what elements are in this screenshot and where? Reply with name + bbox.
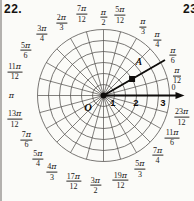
pi-symbol: π — [75, 171, 80, 180]
angle-label-315deg: 7π4 — [152, 146, 163, 165]
fraction: 17π12 — [66, 172, 81, 191]
fraction-denominator: 12 — [113, 181, 128, 190]
angle-label-345deg: 23π12 — [174, 108, 189, 127]
pi-symbol: π — [174, 65, 179, 74]
angle-label-45deg: π4 — [154, 30, 161, 49]
pi-symbol: π — [51, 162, 56, 171]
pi-symbol: π — [81, 4, 86, 13]
fraction: 7π12 — [76, 5, 87, 24]
origin-label: O — [84, 102, 92, 113]
pi-symbol: π — [26, 130, 31, 139]
fraction-denominator: 3 — [139, 28, 146, 37]
fraction: 5π12 — [114, 6, 125, 25]
fraction: 11π6 — [165, 129, 180, 148]
angle-label-90deg: π2 — [100, 8, 107, 27]
angle-label-60deg: π3 — [139, 18, 146, 37]
axis-number-2: 2 — [133, 96, 138, 107]
angle-label-135deg: 3π4 — [36, 25, 47, 44]
pi-symbol: π — [122, 170, 127, 179]
fraction-denominator: 12 — [173, 76, 181, 85]
axis-number-3: 3 — [160, 96, 165, 107]
pi-symbol: π — [9, 90, 14, 99]
fraction-denominator: 2 — [90, 186, 101, 195]
pi-symbol: π — [16, 61, 21, 70]
fraction-denominator: 2 — [100, 18, 107, 27]
fraction: π6 — [169, 46, 176, 65]
angle-label-270deg: 3π2 — [90, 176, 101, 195]
pi-symbol: π — [37, 149, 42, 158]
pi-symbol: π — [139, 159, 144, 168]
fraction: 5π6 — [20, 41, 31, 60]
fraction: π4 — [154, 30, 161, 49]
fraction-denominator: 4 — [152, 156, 163, 165]
fraction: 23π12 — [174, 108, 189, 127]
polar-grid-figure: 22. 23 0π12π6π4π35π12π27π122π33π45π611π1… — [0, 0, 194, 201]
angle-label-165deg: 11π12 — [7, 62, 22, 81]
fraction: 7π6 — [21, 131, 32, 150]
fraction: 4π3 — [46, 163, 57, 182]
polar-axis-arrowhead — [176, 92, 185, 99]
pi-symbol: π — [25, 40, 30, 49]
point-a-marker — [129, 76, 135, 82]
fraction-denominator: 12 — [7, 120, 22, 129]
fraction: 2π3 — [56, 13, 67, 32]
pi-symbol: π — [183, 107, 188, 116]
pi-symbol: π — [95, 175, 100, 184]
fraction-denominator: 4 — [32, 160, 43, 169]
pi-symbol: π — [170, 45, 175, 54]
fraction-denominator: 12 — [76, 15, 87, 24]
fraction-denominator: 12 — [114, 16, 125, 25]
angle-label-285deg: 19π12 — [113, 171, 128, 190]
angle-label-330deg: 11π6 — [165, 129, 180, 148]
fraction-denominator: 6 — [169, 56, 176, 65]
origin-dot — [101, 93, 107, 99]
fraction-denominator: 6 — [21, 141, 32, 150]
fraction-denominator: 12 — [7, 72, 22, 81]
angle-label-300deg: 5π3 — [134, 160, 145, 179]
pi-symbol: π — [119, 5, 124, 14]
angle-label-150deg: 5π6 — [20, 41, 31, 60]
fraction-denominator: 3 — [56, 23, 67, 32]
fraction: 11π12 — [7, 62, 22, 81]
angle-label-210deg: 7π6 — [21, 131, 32, 150]
fraction: π2 — [100, 8, 107, 27]
fraction-denominator: 3 — [46, 173, 57, 182]
pi-symbol: π — [101, 7, 106, 16]
fraction-denominator: 6 — [165, 139, 180, 148]
angle-label-240deg: 4π3 — [46, 163, 57, 182]
pi-symbol: π — [173, 128, 178, 137]
pi-symbol: π — [157, 145, 162, 154]
angle-label-75deg: 5π12 — [114, 6, 125, 25]
angle-label-255deg: 17π12 — [66, 172, 81, 191]
pi-symbol: π — [16, 109, 21, 118]
angle-label-15deg: π12 — [173, 66, 181, 85]
fraction: 13π12 — [7, 110, 22, 129]
fraction: π3 — [139, 18, 146, 37]
fraction-denominator: 4 — [36, 34, 47, 43]
pi-symbol: π — [155, 29, 160, 38]
pi-symbol: π — [61, 12, 66, 21]
angle-label-120deg: 2π3 — [56, 13, 67, 32]
fraction: 5π3 — [134, 160, 145, 179]
fraction: 19π12 — [113, 171, 128, 190]
pi-symbol: π — [140, 17, 145, 26]
fraction: 3π2 — [90, 176, 101, 195]
fraction: π12 — [173, 66, 181, 85]
fraction-denominator: 12 — [174, 118, 189, 127]
angle-label-180deg: π — [9, 91, 14, 99]
angle-label-195deg: 13π12 — [7, 110, 22, 129]
point-a-label: A — [136, 57, 142, 67]
angle-label-225deg: 5π4 — [32, 150, 43, 169]
fraction-denominator: 12 — [66, 182, 81, 191]
fraction: 5π4 — [32, 150, 43, 169]
fraction-denominator: 6 — [20, 51, 31, 60]
fraction: 3π4 — [36, 25, 47, 44]
fraction-denominator: 3 — [134, 170, 145, 179]
fraction: 7π4 — [152, 146, 163, 165]
angle-label-30deg: π6 — [169, 46, 176, 65]
angle-label-105deg: 7π12 — [76, 5, 87, 24]
fraction-denominator: 4 — [154, 40, 161, 49]
pi-symbol: π — [41, 24, 46, 33]
axis-number-1: 1 — [110, 96, 115, 107]
